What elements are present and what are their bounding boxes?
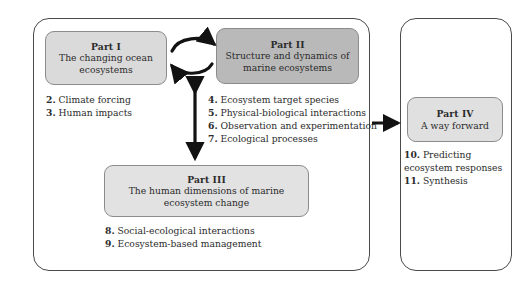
part-3-title: Part III: [187, 174, 226, 185]
way-forward-panel: [400, 18, 512, 271]
chapter-number: 3.: [46, 107, 56, 118]
chapter-title: Human impacts: [59, 107, 133, 118]
list-item: 6. Observation and experimentation: [208, 119, 373, 132]
chapter-number: 8.: [105, 225, 115, 236]
chapter-title: Ecosystem target species: [221, 94, 340, 105]
part-4-subtitle: A way forward: [416, 120, 494, 131]
chapter-number: 7.: [208, 133, 218, 144]
chapter-number: 9.: [105, 238, 115, 249]
list-item: 3. Human impacts: [46, 106, 196, 119]
part-1-box[interactable]: Part I The changing ocean ecosystems: [45, 31, 167, 85]
chapter-number: 2.: [46, 94, 56, 105]
list-item: 5. Physical-biological interactions: [208, 106, 373, 119]
chapter-number: 10.: [404, 149, 420, 160]
list-item: 7. Ecological processes: [208, 132, 373, 145]
list-item: 8. Social-ecological interactions: [105, 224, 335, 237]
chapter-number: 4.: [208, 94, 218, 105]
list-item: 9. Ecosystem-based management: [105, 237, 335, 250]
part-3-chapter-list: 8. Social-ecological interactions 9. Eco…: [105, 224, 335, 250]
chapter-number: 11.: [404, 175, 420, 186]
part-4-box[interactable]: Part IV A way forward: [407, 97, 503, 142]
list-item: 2. Climate forcing: [46, 93, 196, 106]
part-1-subtitle: The changing ocean ecosystems: [46, 52, 166, 74]
part-2-box[interactable]: Part II Structure and dynamics of marine…: [216, 28, 359, 84]
part-1-chapter-list: 2. Climate forcing 3. Human impacts: [46, 93, 196, 119]
part-2-title: Part II: [270, 39, 304, 50]
chapter-title: Observation and experimentation: [221, 120, 377, 131]
list-item: 11. Synthesis: [404, 174, 508, 187]
chapter-title: Ecological processes: [221, 133, 318, 144]
list-item: 4. Ecosystem target species: [208, 93, 373, 106]
part-2-chapter-list: 4. Ecosystem target species 5. Physical-…: [208, 93, 373, 145]
part-4-chapter-list: 10. Predicting ecosystem responses 11. S…: [404, 148, 508, 187]
part-1-title: Part I: [91, 41, 121, 52]
chapter-title: Ecosystem-based management: [118, 238, 262, 249]
list-item: 10. Predicting ecosystem responses: [404, 148, 508, 174]
framework-diagram: Part I The changing ocean ecosystems 2. …: [0, 0, 531, 286]
chapter-number: 5.: [208, 107, 218, 118]
part-2-subtitle: Structure and dynamics of marine ecosyst…: [217, 50, 358, 72]
chapter-title: Synthesis: [423, 175, 468, 186]
chapter-title: Physical-biological interactions: [221, 107, 367, 118]
chapter-number: 6.: [208, 120, 218, 131]
chapter-title: Social-ecological interactions: [118, 225, 255, 236]
part-4-title: Part IV: [436, 108, 473, 119]
part-3-subtitle: The human dimensions of marine ecosystem…: [105, 185, 308, 207]
part-3-box[interactable]: Part III The human dimensions of marine …: [104, 165, 309, 217]
chapter-title: Climate forcing: [59, 94, 131, 105]
